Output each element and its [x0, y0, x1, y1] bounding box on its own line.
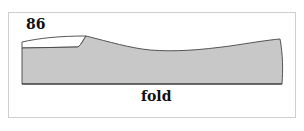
pattern-flap — [22, 36, 86, 48]
pattern-piece — [0, 0, 304, 131]
size-label: 86 — [26, 17, 45, 31]
fold-label: fold — [141, 89, 171, 103]
